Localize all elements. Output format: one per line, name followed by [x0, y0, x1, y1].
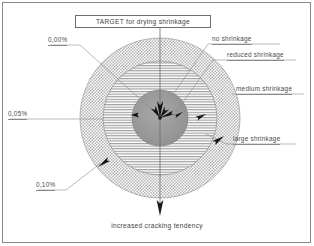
scale-label-005: 0,05% [8, 110, 27, 120]
figure-root: TARGET for drying shrinkage 0,00% 0,05% … [0, 0, 314, 246]
zone-label-large-shrinkage: large shrinkage [233, 135, 280, 145]
zone-label-reduced-shrinkage: reduced shrinkage [227, 51, 284, 61]
bottom-caption: increased cracking tendency [0, 222, 314, 229]
title-text: TARGET for drying shrinkage [96, 18, 190, 25]
scale-label-000: 0,00% [48, 36, 67, 46]
zone-label-medium-shrinkage: medium shrinkage [236, 85, 292, 95]
zone-label-no-shrinkage: no shrinkage [212, 35, 252, 45]
title-box: TARGET for drying shrinkage [75, 15, 211, 28]
scale-label-010: 0,10% [36, 181, 55, 191]
